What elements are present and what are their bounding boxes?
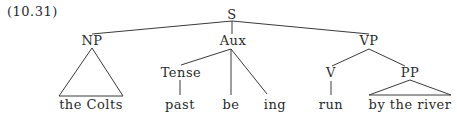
node-np: NP (81, 34, 102, 48)
node-pp: PP (401, 66, 420, 80)
np-triangle (59, 48, 123, 96)
leaf-past: past (165, 98, 195, 112)
edge-aux-tense (181, 49, 231, 65)
edge-s-vp (232, 21, 369, 34)
edge-s-np (92, 21, 232, 34)
leaf-be: be (222, 98, 239, 112)
node-v: V (326, 66, 336, 80)
node-vp: VP (359, 34, 378, 48)
edge-vp-v (332, 49, 369, 66)
pp-triangle (369, 80, 451, 95)
node-tense: Tense (161, 66, 202, 80)
leaf-the-colts: the Colts (59, 98, 123, 112)
node-s: S (227, 8, 236, 22)
node-aux: Aux (220, 34, 247, 48)
edge-vp-pp (369, 49, 405, 66)
leaf-ing: ing (264, 98, 286, 112)
edge-aux-ing (231, 49, 267, 94)
leaf-run: run (319, 98, 343, 112)
leaf-by-the-river: by the river (369, 98, 452, 112)
